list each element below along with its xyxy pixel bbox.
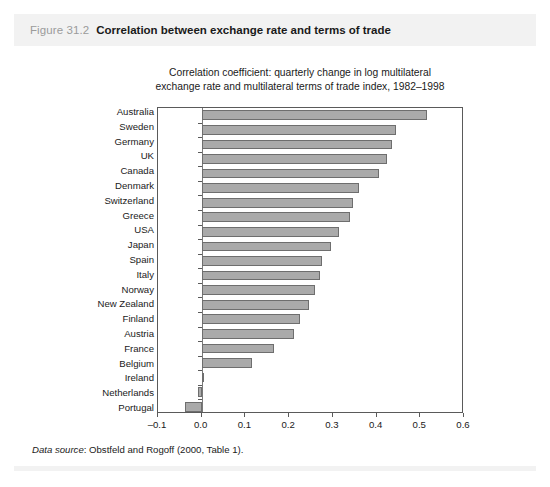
y-axis-label: Italy: [40, 270, 154, 280]
bar-row: [158, 358, 462, 368]
bar-row: [158, 140, 462, 150]
y-axis-label: Austria: [40, 329, 154, 339]
y-axis-label: Australia: [40, 107, 154, 117]
y-axis-label: Portugal: [40, 403, 154, 413]
x-axis-tick-label: 0.0: [194, 419, 207, 430]
x-axis-tick: [157, 413, 158, 417]
bar: [202, 125, 397, 135]
bar: [202, 140, 392, 150]
y-axis-label: Greece: [40, 211, 154, 221]
x-axis-tick-label: 0.3: [325, 419, 338, 430]
bar-series: [158, 108, 462, 412]
bar-row: [158, 402, 462, 412]
bar: [202, 300, 309, 310]
y-axis-label: France: [40, 344, 154, 354]
bar: [202, 212, 351, 222]
figure-page: Figure 31.2 Correlation between exchange…: [0, 0, 550, 487]
y-axis-label: New Zealand: [40, 299, 154, 309]
bar-row: [158, 154, 462, 164]
chart-container: AustraliaSwedenGermanyUKCanadaDenmarkSwi…: [0, 104, 550, 434]
footer-divider: [14, 466, 536, 471]
bar-row: [158, 314, 462, 324]
x-axis-tick-label: –0.1: [148, 419, 167, 430]
bar: [202, 169, 379, 179]
chart-title: Correlation coefficient: quarterly chang…: [100, 66, 500, 94]
y-axis-label: Netherlands: [40, 388, 154, 398]
bar: [202, 285, 316, 295]
bar: [202, 344, 274, 354]
figure-number: Figure 31.2: [30, 24, 89, 36]
bar-row: [158, 256, 462, 266]
y-axis-label: Spain: [40, 255, 154, 265]
bar: [202, 271, 320, 281]
source-label: Data source: [32, 444, 84, 455]
y-axis-label: Canada: [40, 166, 154, 176]
source-reference: : Obstfeld and Rogoff (2000, Table 1).: [84, 444, 244, 455]
y-axis-label: Sweden: [40, 122, 154, 132]
bar-row: [158, 285, 462, 295]
figure-source-note: Data source: Obstfeld and Rogoff (2000, …: [32, 444, 243, 455]
bar-row: [158, 169, 462, 179]
bar: [202, 314, 300, 324]
plot-area: [157, 107, 463, 413]
bar: [202, 227, 340, 237]
bar-row: [158, 110, 462, 120]
bar-row: [158, 271, 462, 281]
x-axis-tick-label: 0.5: [413, 419, 426, 430]
x-axis-tick-label: 0.6: [456, 419, 469, 430]
bar: [202, 242, 331, 252]
x-axis-tick: [463, 413, 464, 417]
x-axis-tick: [376, 413, 377, 417]
y-axis-label: Japan: [40, 240, 154, 250]
bar-row: [158, 373, 462, 383]
x-axis-tick: [419, 413, 420, 417]
x-axis-tick-label: 0.2: [281, 419, 294, 430]
bar: [202, 373, 205, 383]
chart-title-line-2: exchange rate and multilateral terms of …: [100, 80, 500, 94]
figure-caption: Correlation between exchange rate and te…: [96, 24, 391, 36]
bar-row: [158, 183, 462, 193]
bar: [202, 198, 353, 208]
y-axis-label: UK: [40, 151, 154, 161]
bar: [202, 154, 388, 164]
y-axis-label: Denmark: [40, 181, 154, 191]
x-axis-tick-label: 0.1: [238, 419, 251, 430]
y-axis-label: USA: [40, 225, 154, 235]
x-axis-tick: [288, 413, 289, 417]
x-axis-tick: [244, 413, 245, 417]
x-axis-tick: [332, 413, 333, 417]
bar: [202, 256, 322, 266]
bar: [198, 387, 201, 397]
x-axis-tick-label: 0.4: [369, 419, 382, 430]
bar-row: [158, 125, 462, 135]
y-axis-label: Norway: [40, 285, 154, 295]
y-axis-label: Ireland: [40, 373, 154, 383]
x-axis: –0.10.00.10.20.30.40.50.6: [157, 413, 463, 443]
bar-row: [158, 227, 462, 237]
bar-row: [158, 387, 462, 397]
bar-row: [158, 329, 462, 339]
figure-header: Figure 31.2 Correlation between exchange…: [14, 14, 536, 46]
bar: [202, 183, 359, 193]
bar-row: [158, 300, 462, 310]
bar-row: [158, 198, 462, 208]
y-axis-label: Germany: [40, 137, 154, 147]
bar-row: [158, 242, 462, 252]
bar: [202, 110, 427, 120]
bar: [202, 329, 294, 339]
bar-row: [158, 344, 462, 354]
chart-title-line-1: Correlation coefficient: quarterly chang…: [100, 66, 500, 80]
bar-row: [158, 212, 462, 222]
bar: [185, 402, 202, 412]
y-axis-label: Finland: [40, 314, 154, 324]
y-axis-label: Belgium: [40, 359, 154, 369]
x-axis-tick: [201, 413, 202, 417]
y-axis-category-labels: AustraliaSwedenGermanyUKCanadaDenmarkSwi…: [40, 107, 154, 413]
bar: [202, 358, 252, 368]
y-axis-label: Switzerland: [40, 196, 154, 206]
